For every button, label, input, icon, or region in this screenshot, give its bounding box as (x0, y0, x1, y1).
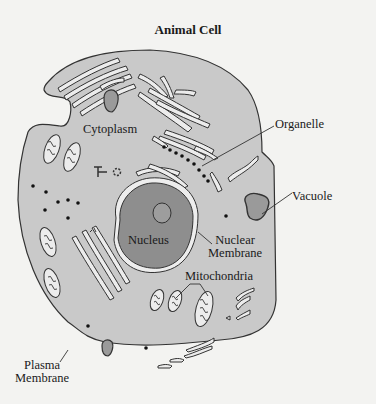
label-plasma-membrane-line2: Membrane (15, 372, 69, 385)
label-cytoplasm: Cytoplasm (83, 123, 137, 136)
label-mitochondria: Mitochondria (185, 270, 253, 283)
nucleus-group (114, 178, 198, 273)
label-organelle: Organelle (275, 118, 324, 131)
label-plasma-membrane: Plasma Membrane (15, 359, 69, 385)
animal-cell-diagram: Animal Cell (0, 0, 376, 404)
label-vacuole: Vacuole (292, 190, 332, 203)
nucleus (118, 183, 193, 268)
nucleolus (153, 203, 171, 223)
label-nuclear-membrane: Nuclear Membrane (208, 234, 262, 260)
label-nucleus: Nucleus (128, 234, 169, 247)
vesicle-bottom (102, 340, 113, 356)
label-nuclear-membrane-line2: Membrane (208, 247, 262, 260)
